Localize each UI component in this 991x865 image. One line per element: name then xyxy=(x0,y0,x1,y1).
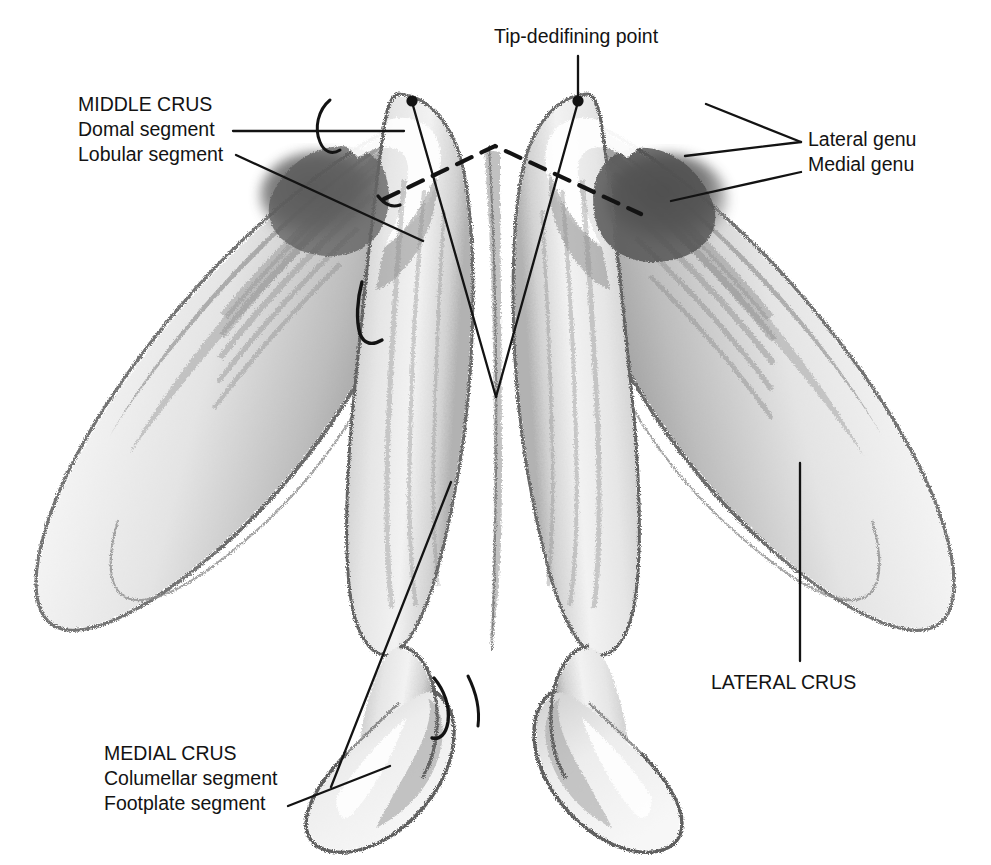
label-genu-group: Lateral genu Medial genu xyxy=(808,127,916,177)
label-lateral-genu: Lateral genu xyxy=(808,127,916,152)
label-lateral-crus-heading: LATERAL CRUS xyxy=(711,670,856,695)
figure-page: Fig. 16. Tripod concept of lower lateral xyxy=(0,0,991,865)
label-middle-crus-lobular: Lobular segment xyxy=(78,142,223,167)
label-medial-genu: Medial genu xyxy=(808,152,916,177)
label-medial-crus: MEDIAL CRUS Columellar segment Footplate… xyxy=(104,741,277,816)
label-middle-crus: MIDDLE CRUS Domal segment Lobular segmen… xyxy=(78,92,223,167)
label-middle-crus-heading: MIDDLE CRUS xyxy=(78,92,223,117)
label-tip-defining-point-heading: Tip-dedifining point xyxy=(494,24,658,49)
label-medial-crus-footplate: Footplate segment xyxy=(104,791,277,816)
label-middle-crus-domal: Domal segment xyxy=(78,117,223,142)
label-lateral-crus: LATERAL CRUS xyxy=(711,670,856,695)
label-medial-crus-heading: MEDIAL CRUS xyxy=(104,741,277,766)
label-medial-crus-columellar: Columellar segment xyxy=(104,766,277,791)
label-tip-defining-point: Tip-dedifining point xyxy=(494,24,658,49)
